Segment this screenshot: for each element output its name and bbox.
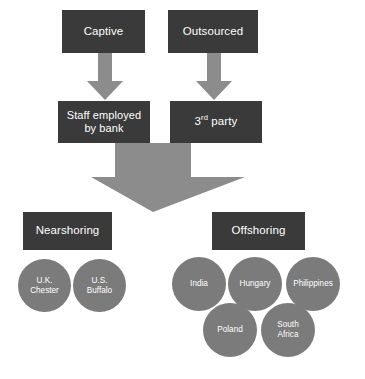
arrow-down-captive-to-staff-icon bbox=[85, 53, 125, 101]
offshoring-location-circle: Poland bbox=[203, 303, 257, 357]
node-offshoring-label: Offshoring bbox=[216, 224, 301, 238]
nearshoring-location-circle: U.S.Buffalo bbox=[73, 259, 126, 312]
arrow-down-outsourced-to-third-party-icon bbox=[194, 53, 234, 101]
node-third-party-label: 3rd party bbox=[174, 115, 258, 129]
node-nearshoring: Nearshoring bbox=[23, 212, 112, 250]
location-line-1: U.S. bbox=[92, 276, 108, 285]
offshoring-location-label: India bbox=[172, 279, 226, 289]
location-line-1: South bbox=[277, 320, 298, 329]
sourcing-model-diagram: Captive Outsourced Staff employedby bank… bbox=[0, 0, 365, 379]
node-captive-label: Captive bbox=[66, 25, 141, 39]
nearshoring-location-circle: U.K.Chester bbox=[18, 259, 71, 312]
location-line-2: Africa bbox=[278, 330, 299, 339]
nearshoring-location-label: U.S.Buffalo bbox=[73, 276, 126, 296]
offshoring-location-label: Hungary bbox=[228, 279, 282, 289]
location-line-2: Chester bbox=[30, 286, 59, 295]
staff-label-line-2: by bank bbox=[84, 122, 123, 134]
arrow-down-merge-to-shoring-icon bbox=[88, 143, 248, 213]
node-third-party: 3rd party bbox=[170, 101, 262, 143]
offshoring-location-label: Philippines bbox=[286, 279, 340, 289]
node-outsourced: Outsourced bbox=[168, 10, 258, 53]
offshoring-location-circle: SouthAfrica bbox=[261, 303, 315, 357]
offshoring-location-label: Poland bbox=[203, 325, 257, 335]
third-party-word: party bbox=[208, 115, 237, 127]
offshoring-location-circle: India bbox=[172, 257, 226, 311]
node-captive: Captive bbox=[62, 10, 145, 53]
offshoring-location-label: SouthAfrica bbox=[261, 320, 315, 340]
third-party-ordinal-suffix: rd bbox=[201, 113, 208, 122]
node-outsourced-label: Outsourced bbox=[172, 25, 254, 39]
node-offshoring: Offshoring bbox=[212, 212, 305, 250]
node-nearshoring-label: Nearshoring bbox=[27, 224, 108, 238]
location-line-2: Buffalo bbox=[87, 286, 112, 295]
node-staff-employed-by-bank-label: Staff employedby bank bbox=[62, 109, 146, 135]
node-staff-employed-by-bank: Staff employedby bank bbox=[58, 101, 150, 143]
staff-label-line-1: Staff employed bbox=[67, 109, 142, 121]
location-line-1: U.K. bbox=[37, 276, 53, 285]
nearshoring-location-label: U.K.Chester bbox=[18, 276, 71, 296]
